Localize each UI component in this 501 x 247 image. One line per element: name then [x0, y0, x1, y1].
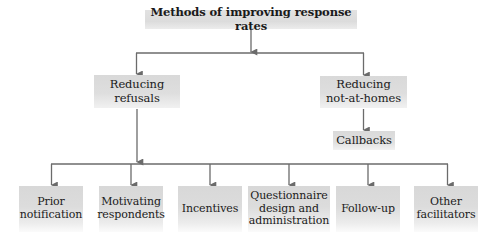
diagram-canvas: Methods of improving response rates Redu…	[0, 0, 501, 247]
node-prior-notification: Prior notification	[19, 186, 83, 232]
node-prior-notification-label: Prior notification	[20, 196, 82, 222]
node-other-facilitators-label: Other facilitators	[416, 196, 475, 222]
node-questionnaire-design-label: Questionnaire design and administration	[249, 190, 329, 229]
node-reducing-refusals-label: Reducing refusals	[110, 78, 164, 105]
node-questionnaire-design: Questionnaire design and administration	[248, 186, 330, 232]
node-callbacks-label: Callbacks	[336, 134, 392, 148]
node-motivating-respondents-label: Motivating respondents	[97, 196, 165, 222]
node-other-facilitators: Other facilitators	[414, 186, 478, 232]
node-reducing-not-at-homes-label: Reducing not-at-homes	[326, 78, 401, 105]
node-follow-up: Follow-up	[336, 186, 400, 232]
node-incentives: Incentives	[178, 186, 242, 232]
node-follow-up-label: Follow-up	[341, 203, 395, 216]
node-incentives-label: Incentives	[182, 203, 239, 216]
root-node: Methods of improving response rates	[145, 10, 357, 29]
root-node-label: Methods of improving response rates	[145, 6, 357, 33]
node-reducing-not-at-homes: Reducing not-at-homes	[320, 76, 407, 108]
node-callbacks: Callbacks	[333, 131, 395, 150]
node-reducing-refusals: Reducing refusals	[94, 75, 180, 108]
node-motivating-respondents: Motivating respondents	[99, 186, 163, 232]
